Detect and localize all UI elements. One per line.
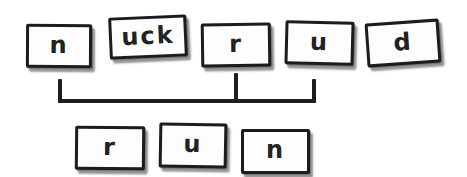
top-tile-d: d	[365, 18, 442, 67]
tile-letter: u	[310, 29, 330, 53]
bottom-tile-n: n	[241, 129, 310, 174]
tile-letter: r	[229, 31, 243, 55]
bottom-tile-u: u	[159, 122, 228, 168]
bracket-bar	[58, 99, 316, 103]
top-tile-n: n	[26, 24, 92, 68]
tile-letter: uck	[121, 22, 175, 48]
bottom-tile-r: r	[75, 126, 145, 171]
top-tile-uck: uck	[108, 14, 188, 59]
top-tile-u: u	[284, 20, 354, 66]
tile-letter: n	[266, 138, 285, 162]
tile-letter: d	[392, 29, 413, 54]
tile-letter: u	[183, 132, 203, 156]
tile-letter: r	[103, 134, 117, 158]
tile-letter: n	[49, 32, 68, 56]
top-tile-r: r	[201, 23, 272, 68]
